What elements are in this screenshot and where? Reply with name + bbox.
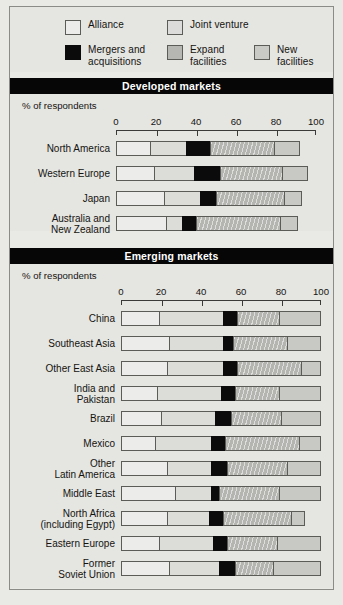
axis-tick-label: 100 xyxy=(313,286,329,297)
bar-segment-alliance xyxy=(121,411,161,426)
bar-row-label: India and Pakistan xyxy=(0,383,115,405)
bar-row: Other Latin America xyxy=(121,461,321,476)
bar-segment-new xyxy=(281,411,321,426)
legend-item-new-facilities: New facilities xyxy=(254,44,314,67)
bar-row-label: Japan xyxy=(0,193,110,204)
legend-swatch-new-facilities-icon xyxy=(254,45,270,60)
axis-tick-mark xyxy=(237,131,238,136)
bar-segment-ma xyxy=(213,536,227,551)
bar-segment-new xyxy=(279,386,321,401)
legend-label-joint-venture: Joint venture xyxy=(190,19,249,31)
bar-row: Western Europe xyxy=(116,166,316,181)
axis-tick-labels: 020406080100 xyxy=(116,116,316,128)
bar-segment-alliance xyxy=(121,311,159,326)
section-header-emerging-markets: Emerging markets xyxy=(10,248,333,264)
bar-segment-expand xyxy=(231,411,281,426)
bar-segment-ma xyxy=(200,191,216,206)
bar-segment-jv xyxy=(167,461,211,476)
bar-segment-alliance xyxy=(121,386,157,401)
legend-label-mergers-acquisitions: Mergers and acquisitions xyxy=(88,44,145,67)
bar-segment-expand xyxy=(235,386,279,401)
bar-segment-ma xyxy=(223,311,237,326)
bar-segment-expand xyxy=(196,216,280,231)
x-axis xyxy=(116,130,316,135)
bar-segment-new xyxy=(287,336,321,351)
bar-segment-jv xyxy=(166,216,182,231)
stacked-bar xyxy=(121,486,321,501)
bar-segment-new xyxy=(301,361,321,376)
bar-segment-new xyxy=(274,141,300,156)
stacked-bar xyxy=(116,166,316,181)
panel-emerging-markets: % of respondents 020406080100ChinaSouthe… xyxy=(10,264,333,588)
bar-segment-expand xyxy=(223,511,291,526)
bar-row-label: Mexico xyxy=(0,438,115,449)
axis-tick-label: 20 xyxy=(151,116,162,127)
section-header-developed-markets: Developed markets xyxy=(10,78,333,94)
bar-row-label: Southeast Asia xyxy=(0,338,115,349)
axis-tick-label: 60 xyxy=(231,116,242,127)
axis-tick-label: 0 xyxy=(118,286,123,297)
bar-segment-jv xyxy=(169,561,219,576)
bar-row: Mexico xyxy=(121,436,321,451)
bar-segment-alliance xyxy=(116,216,166,231)
axis-tick-label: 40 xyxy=(196,286,207,297)
bar-segment-new xyxy=(282,166,308,181)
legend-label-expand-facilities: Expand facilities xyxy=(190,44,227,67)
stacked-bar xyxy=(121,511,321,526)
bar-segment-alliance xyxy=(121,561,169,576)
x-axis xyxy=(121,300,321,305)
bar-row: Brazil xyxy=(121,411,321,426)
bar-row: Middle East xyxy=(121,486,321,501)
bar-row: India and Pakistan xyxy=(121,386,321,401)
bar-segment-new xyxy=(280,216,298,231)
bar-segment-alliance xyxy=(121,511,167,526)
bar-row: Eastern Europe xyxy=(121,536,321,551)
legend-item-joint-venture: Joint venture xyxy=(167,19,249,35)
bar-row: Former Soviet Union xyxy=(121,561,321,576)
stacked-bar xyxy=(116,191,316,206)
bar-row-label: Other Latin America xyxy=(0,458,115,480)
stacked-bar xyxy=(121,386,321,401)
stacked-bar xyxy=(121,561,321,576)
bar-segment-ma xyxy=(221,386,235,401)
bar-row: China xyxy=(121,311,321,326)
bar-segment-jv xyxy=(167,361,223,376)
bar-segment-jv xyxy=(155,436,211,451)
bar-segment-alliance xyxy=(121,486,175,501)
bar-row-label: North Africa (including Egypt) xyxy=(0,508,115,530)
bar-segment-jv xyxy=(159,536,213,551)
axis-tick-label: 20 xyxy=(156,286,167,297)
figure-root: Alliance Joint venture Mergers and acqui… xyxy=(0,0,343,605)
bar-segment-new xyxy=(287,461,321,476)
bar-segment-alliance xyxy=(116,166,154,181)
axis-tick-label: 80 xyxy=(276,286,287,297)
legend-label-alliance: Alliance xyxy=(88,19,124,31)
bar-segment-jv xyxy=(169,336,223,351)
stacked-bar xyxy=(121,311,321,326)
panel-developed-markets: % of respondents 020406080100North Ameri… xyxy=(10,94,333,231)
axis-tick-label: 0 xyxy=(113,116,118,127)
bar-segment-ma xyxy=(211,436,225,451)
bar-segment-ma xyxy=(211,461,227,476)
legend-swatch-expand-facilities-icon xyxy=(167,45,183,60)
legend-item-expand-facilities: Expand facilities xyxy=(167,44,227,67)
bar-segment-jv xyxy=(150,141,186,156)
bar-segment-new xyxy=(273,561,321,576)
bar-segment-new xyxy=(279,311,321,326)
axis-tick-label: 100 xyxy=(308,116,324,127)
bar-row: North America xyxy=(116,141,316,156)
axis-tick-mark xyxy=(162,301,163,306)
bar-segment-new xyxy=(277,536,321,551)
bar-segment-new xyxy=(279,486,321,501)
bar-segment-jv xyxy=(167,511,209,526)
bar-segment-alliance xyxy=(121,436,155,451)
axis-tick-mark xyxy=(202,301,203,306)
stacked-bar xyxy=(116,216,316,231)
bar-segment-expand xyxy=(220,166,282,181)
legend-swatch-joint-venture-icon xyxy=(167,20,183,35)
legend-swatch-alliance-icon xyxy=(65,20,81,35)
bar-segment-jv xyxy=(161,411,215,426)
stacked-bar xyxy=(121,411,321,426)
legend-swatch-mergers-acquisitions-icon xyxy=(65,45,81,60)
bar-segment-alliance xyxy=(121,536,159,551)
